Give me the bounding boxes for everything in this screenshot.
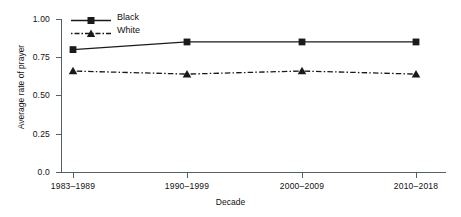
line-chart: 1.00 0.75 0.50 0.25 0.0 Average rate of …: [0, 0, 461, 217]
y-axis-line: [61, 19, 62, 173]
legend-item-white[interactable]: White: [70, 25, 140, 36]
legend-key-solid-square-icon: [70, 12, 112, 23]
x-tick-mark: [187, 173, 188, 178]
x-tick-mark: [302, 173, 303, 178]
y-tick-label-050: 0.50: [4, 91, 50, 100]
y-tick-mark: [56, 134, 61, 135]
x-tick-mark: [416, 173, 417, 178]
plot-area: [62, 19, 445, 172]
legend: Black White: [70, 12, 140, 36]
x-tick-label-1: 1983–1989: [28, 182, 118, 191]
y-tick-label-000: 0.0: [4, 168, 50, 177]
x-tick-mark: [73, 173, 74, 178]
legend-label-white: White: [117, 26, 140, 35]
y-tick-label-100: 1.00: [4, 15, 50, 24]
y-tick-label-075: 0.75: [4, 53, 50, 62]
x-tick-label-4: 2010–2018: [371, 182, 461, 191]
y-tick-mark: [56, 172, 61, 173]
x-tick-label-2: 1990–1999: [142, 182, 232, 191]
legend-item-black[interactable]: Black: [70, 12, 140, 23]
x-tick-label-3: 2000–2009: [257, 182, 347, 191]
y-tick-mark: [56, 95, 61, 96]
y-tick-mark: [56, 57, 61, 58]
legend-key-dashdot-triangle-icon: [70, 25, 112, 36]
x-axis-line: [61, 172, 446, 173]
x-axis-title: Decade: [0, 197, 461, 207]
y-tick-mark: [56, 19, 61, 20]
legend-label-black: Black: [117, 13, 139, 22]
y-axis-title: Average rate of prayer: [16, 22, 26, 152]
y-tick-label-025: 0.25: [4, 130, 50, 139]
